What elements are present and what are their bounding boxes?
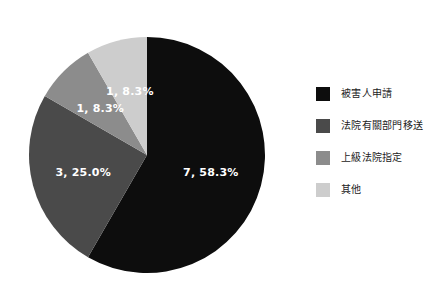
legend-item-higher-court-designation[interactable]: 上級法院指定 — [316, 142, 440, 173]
pie-plot-area: 7, 58.3%3, 25.0%1, 8.3%1, 8.3% — [0, 0, 300, 299]
pie-svg: 7, 58.3%3, 25.0%1, 8.3%1, 8.3% — [0, 0, 300, 299]
legend-item-label: 上級法院指定 — [341, 151, 403, 164]
legend-item-court-department-transfer[interactable]: 法院有關部門移送 — [316, 110, 440, 141]
pie-slice-data-label: 1, 8.3% — [77, 102, 125, 115]
pie-slice-data-label: 3, 25.0% — [55, 166, 110, 179]
legend-swatch-icon — [316, 151, 330, 165]
pie-slice-data-label: 1, 8.3% — [106, 85, 154, 98]
legend-item-victim-application[interactable]: 被害人申請 — [316, 78, 440, 109]
pie-slice-group — [29, 37, 265, 273]
legend-swatch-icon — [316, 119, 330, 133]
legend-item-label: 其他 — [341, 183, 362, 196]
legend-swatch-icon — [316, 183, 330, 197]
pie-chart: 7, 58.3%3, 25.0%1, 8.3%1, 8.3% 被害人申請 法院有… — [0, 0, 444, 299]
chart-legend: 被害人申請 法院有關部門移送 上級法院指定 其他 — [316, 78, 440, 206]
legend-item-other[interactable]: 其他 — [316, 174, 440, 205]
pie-slice-data-label: 7, 58.3% — [183, 166, 238, 179]
legend-swatch-icon — [316, 87, 330, 101]
legend-item-label: 被害人申請 — [341, 87, 393, 100]
legend-item-label: 法院有關部門移送 — [341, 119, 423, 132]
